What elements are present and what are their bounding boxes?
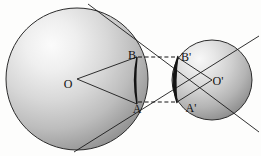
geometry-diagram-canvas: O O' B B' A A' — [0, 0, 261, 156]
label-point-b: B — [128, 48, 136, 62]
geometry-figure: O O' B B' A A' — [0, 0, 261, 156]
label-point-b-prime: B' — [181, 50, 191, 64]
label-center-right: O' — [213, 74, 224, 88]
label-point-a-prime: A' — [186, 101, 197, 115]
label-center-left: O — [64, 77, 73, 91]
label-point-a: A — [133, 102, 142, 116]
